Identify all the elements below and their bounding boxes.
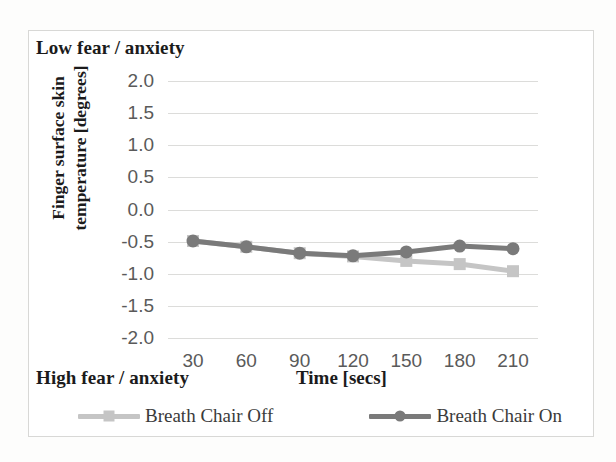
series-plot	[168, 81, 538, 338]
legend-swatch-breath-chair-on	[369, 410, 431, 422]
data-point-marker	[507, 265, 519, 277]
y-axis-tick-label: -1.0	[96, 263, 154, 285]
y-axis-title-line1: Finger surface skin	[48, 76, 69, 220]
y-axis-tick-label: 1.5	[96, 102, 154, 124]
y-axis-tick-label: 1.0	[96, 134, 154, 156]
x-axis-tick-label: 180	[444, 350, 476, 372]
x-axis-tick-label: 150	[390, 350, 422, 372]
x-axis-tick-label: 60	[236, 350, 257, 372]
data-point-marker	[453, 240, 466, 253]
legend-label-breath-chair-on: Breath Chair On	[436, 405, 562, 427]
legend-item-breath-chair-on[interactable]: Breath Chair On	[369, 405, 562, 427]
legend-item-breath-chair-off[interactable]: Breath Chair Off	[78, 405, 273, 427]
y-axis-title-line2: temperature [degrees]	[70, 65, 91, 230]
data-point-marker	[240, 240, 253, 253]
x-axis-title: Time [secs]	[296, 367, 387, 389]
y-axis-tick-label: 2.0	[96, 70, 154, 92]
data-point-marker	[347, 249, 360, 262]
data-point-marker	[507, 242, 520, 255]
legend-swatch-breath-chair-off	[78, 410, 140, 422]
data-point-marker	[293, 247, 306, 260]
chart-screenshot: Low fear / anxiety High fear / anxiety F…	[0, 0, 616, 462]
high-fear-anxiety-annotation: High fear / anxiety	[36, 367, 189, 389]
y-axis-tick-label: 0.0	[96, 199, 154, 221]
y-axis-tick-label: -2.0	[96, 327, 154, 349]
y-axis-tick-label: -0.5	[96, 231, 154, 253]
y-axis-title: Finger surface skin temperature [degrees…	[41, 33, 97, 263]
chart-legend: Breath Chair Off Breath Chair On	[78, 405, 568, 427]
data-point-marker	[187, 235, 200, 248]
gridline	[168, 338, 538, 339]
x-axis-tick-label: 210	[497, 350, 529, 372]
data-point-marker	[400, 245, 413, 258]
y-axis-tick-label: 0.5	[96, 166, 154, 188]
plot-area: 2.01.51.00.50.0-0.5-1.0-1.5-2.0 30609012…	[168, 81, 538, 338]
x-axis-tick-label: 30	[182, 350, 203, 372]
y-axis-tick-label: -1.5	[96, 295, 154, 317]
data-point-marker	[454, 258, 466, 270]
legend-label-breath-chair-off: Breath Chair Off	[145, 405, 273, 427]
